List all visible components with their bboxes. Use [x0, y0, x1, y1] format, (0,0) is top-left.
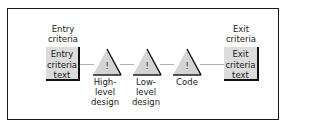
- stage-2-line-1: Low-: [129, 77, 163, 87]
- stage-1-line-3: design: [88, 97, 122, 107]
- stage-1-line-1: High-: [88, 77, 122, 87]
- svg-text:!: !: [105, 62, 108, 71]
- stage-label-code: Code: [170, 77, 204, 87]
- stage-2-line-2: level: [129, 87, 163, 97]
- stage-label-high-level-design: High- level design: [88, 77, 122, 107]
- warning-triangle-icon: !: [172, 48, 202, 76]
- warning-triangle-icon: !: [92, 48, 122, 76]
- exit-box-line-2: criteria: [224, 60, 257, 71]
- warning-triangle-icon: !: [132, 48, 162, 76]
- entry-heading-line-1: Entry: [40, 24, 86, 34]
- exit-criteria-heading: Exit criteria: [218, 24, 264, 44]
- entry-box-line-3: text: [46, 70, 78, 81]
- exit-criteria-box: Exit criteria text: [224, 47, 259, 81]
- stage-3-line-1: Code: [170, 77, 204, 87]
- entry-box-line-2: criteria: [46, 60, 78, 71]
- exit-box-line-1: Exit: [224, 49, 257, 60]
- entry-criteria-heading: Entry criteria: [40, 24, 86, 44]
- exit-heading-line-1: Exit: [218, 24, 264, 34]
- stage-label-low-level-design: Low- level design: [129, 77, 163, 107]
- exit-heading-line-2: criteria: [218, 34, 264, 44]
- entry-criteria-box: Entry criteria text: [46, 47, 80, 81]
- entry-heading-line-2: criteria: [40, 34, 86, 44]
- stage-2-line-3: design: [129, 97, 163, 107]
- connector-code-to-exit: [200, 64, 225, 65]
- exit-box-line-3: text: [224, 70, 257, 81]
- entry-box-line-1: Entry: [46, 49, 78, 60]
- stage-1-line-2: level: [88, 87, 122, 97]
- svg-text:!: !: [185, 62, 188, 71]
- svg-text:!: !: [145, 62, 148, 71]
